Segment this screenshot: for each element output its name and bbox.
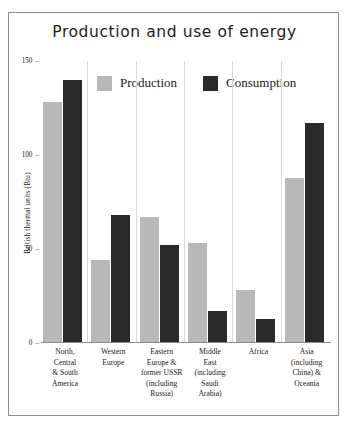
y-tick-50: 50– (11, 245, 39, 253)
bar-production (236, 290, 255, 343)
bar-group (283, 61, 331, 343)
y-tick-dash-icon: – (35, 57, 39, 65)
group-separator (184, 61, 185, 343)
group-separator (136, 61, 137, 343)
bars-layer (41, 61, 331, 343)
bar-production (43, 102, 62, 343)
bar-consumption (160, 245, 179, 343)
group-separator (281, 61, 282, 343)
category-label: WesternEurope (87, 347, 139, 368)
y-tick-0: 0– (11, 339, 39, 347)
bar-group (138, 61, 186, 343)
bar-consumption (63, 80, 82, 343)
category-label: MiddleEast(includingSaudiArabia) (184, 347, 236, 400)
bar-group (234, 61, 282, 343)
bar-production (91, 260, 110, 343)
category-label: Asia(includingChina) &Oceania (281, 347, 333, 389)
y-tick-dash-icon: – (35, 151, 39, 159)
chart-figure-frame: Production and use of energy British the… (8, 12, 339, 416)
category-label: North,Central& SouthAmerica (39, 347, 91, 389)
y-tick-150: 150– (11, 57, 39, 65)
group-separator (87, 61, 88, 343)
y-tick-label: 0 (29, 339, 33, 347)
y-tick-100: 100– (11, 151, 39, 159)
y-tick-label: 50 (25, 245, 32, 253)
chart-title: Production and use of energy (9, 23, 340, 41)
bar-consumption (208, 311, 227, 343)
category-label: EasternEurope &former USSR(includingRuss… (136, 347, 188, 400)
y-tick-dash-icon: – (35, 339, 39, 347)
plot-area: 0–50–100–150– (41, 61, 331, 343)
y-tick-label: 100 (22, 151, 33, 159)
bar-production (140, 217, 159, 343)
x-axis-category-labels: North,Central& SouthAmericaWesternEurope… (41, 347, 331, 413)
bar-consumption (111, 215, 130, 343)
bar-group (186, 61, 234, 343)
bar-consumption (256, 319, 275, 343)
bar-production (285, 178, 304, 343)
bar-group (89, 61, 137, 343)
x-axis-baseline (41, 342, 331, 343)
bar-production (188, 243, 207, 343)
group-separator (232, 61, 233, 343)
y-tick-label: 150 (22, 57, 33, 65)
bar-group (41, 61, 89, 343)
bar-consumption (305, 123, 324, 343)
y-tick-dash-icon: – (35, 245, 39, 253)
category-label: Africa (232, 347, 284, 358)
